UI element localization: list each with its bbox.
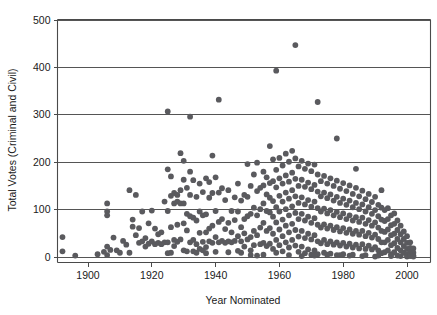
data-point	[270, 214, 276, 220]
data-point	[289, 203, 295, 209]
data-point	[312, 162, 318, 168]
data-point	[353, 200, 359, 206]
data-point	[241, 230, 247, 236]
data-point	[321, 206, 327, 212]
data-point	[366, 230, 372, 236]
data-point	[219, 216, 225, 222]
data-point	[270, 231, 276, 237]
data-point	[203, 250, 209, 256]
data-point	[292, 176, 298, 182]
data-point	[379, 187, 385, 193]
data-point	[359, 241, 365, 247]
data-point	[359, 228, 365, 234]
data-point	[305, 180, 311, 186]
data-point	[328, 207, 334, 213]
data-point	[146, 220, 152, 226]
data-point	[292, 210, 298, 216]
data-point	[261, 220, 267, 226]
data-point	[225, 187, 231, 193]
data-point	[273, 68, 279, 74]
data-point	[372, 194, 378, 200]
data-point	[321, 190, 327, 196]
data-point	[286, 245, 292, 251]
data-point	[187, 192, 193, 198]
data-point	[194, 250, 200, 256]
data-point	[289, 148, 295, 154]
data-point	[328, 192, 334, 198]
data-point	[340, 225, 346, 231]
data-point	[324, 252, 330, 258]
data-point	[261, 201, 267, 207]
data-point	[315, 172, 321, 178]
data-point	[280, 199, 286, 205]
x-axis-title: Year Nominated	[206, 294, 281, 306]
data-point	[222, 197, 228, 203]
data-point	[359, 201, 365, 207]
data-point	[178, 150, 184, 156]
data-point	[340, 180, 346, 186]
data-point	[366, 191, 372, 197]
data-point	[305, 161, 311, 167]
data-point	[359, 215, 365, 221]
data-point	[299, 253, 305, 259]
data-point	[267, 241, 273, 247]
data-point	[254, 160, 260, 166]
data-point	[251, 242, 257, 248]
data-point	[232, 217, 238, 223]
x-tick-label: 2000	[395, 269, 419, 281]
data-point	[401, 229, 407, 235]
data-point	[283, 173, 289, 179]
data-point	[410, 254, 416, 260]
data-point	[251, 205, 257, 211]
data-point	[366, 217, 372, 223]
data-point	[280, 248, 286, 254]
data-point	[312, 215, 318, 221]
data-point	[363, 252, 369, 258]
data-point	[331, 183, 337, 189]
data-point	[385, 237, 391, 243]
data-point	[292, 227, 298, 233]
data-point	[334, 178, 340, 184]
data-point	[174, 192, 180, 198]
data-point	[117, 250, 123, 256]
data-point	[203, 211, 209, 217]
y-tick-label: 100	[33, 203, 51, 215]
data-point	[190, 177, 196, 183]
data-point	[273, 167, 279, 173]
data-point	[299, 158, 305, 164]
data-point	[305, 231, 311, 237]
data-point	[305, 214, 311, 220]
data-point	[289, 221, 295, 227]
data-point	[347, 183, 353, 189]
data-point	[302, 166, 308, 172]
data-point	[133, 192, 139, 198]
data-point	[127, 250, 133, 256]
data-point	[168, 224, 174, 230]
data-point	[277, 209, 283, 215]
data-point	[232, 194, 238, 200]
data-point	[216, 97, 222, 103]
data-point	[404, 233, 410, 239]
data-point	[174, 222, 180, 228]
data-point	[308, 204, 314, 210]
data-point	[238, 224, 244, 230]
data-point	[334, 194, 340, 200]
data-point	[369, 199, 375, 205]
data-point	[340, 210, 346, 216]
data-point	[235, 233, 241, 239]
data-point	[277, 155, 283, 161]
data-point	[60, 248, 66, 254]
data-point	[248, 252, 254, 258]
data-point	[305, 247, 311, 253]
data-point	[213, 234, 219, 240]
data-point	[165, 109, 171, 115]
data-point	[194, 194, 200, 200]
data-point	[104, 212, 110, 218]
data-point	[127, 187, 133, 193]
data-point	[366, 204, 372, 210]
data-point	[350, 191, 356, 197]
data-point	[353, 166, 359, 172]
data-point	[149, 208, 155, 214]
data-point	[254, 212, 260, 218]
data-point	[248, 234, 254, 240]
